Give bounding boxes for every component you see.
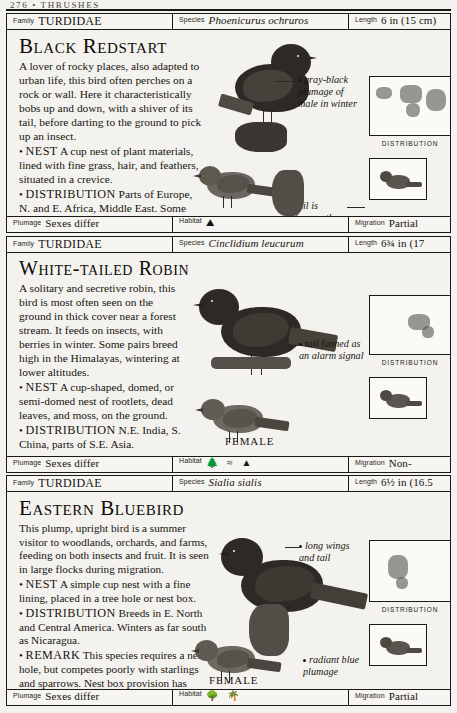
status-habitat: Habitat 🌲 ≈ ▲ — [172, 457, 348, 472]
species-meta-bar: Family TURDIDAE Species Phoenicurus ochr… — [6, 13, 451, 30]
callout-tail-fanned: tail fanned as an alarm signal — [299, 338, 365, 362]
forest-habitat-icon: 🌲 — [206, 458, 218, 468]
distribution-caption: DISTRIBUTION — [369, 606, 451, 613]
bird-tail — [254, 417, 289, 432]
status-bar: Plumage Sexes differ Habitat 🌲 ≈ ▲ Migra… — [6, 456, 451, 473]
callout-text: radiant blue plumage — [303, 654, 359, 677]
callout-dot — [303, 659, 306, 662]
meta-species-key: Species — [179, 478, 205, 485]
entry-description: This plump, upright bird is a summer vis… — [7, 521, 209, 689]
entry-body: Black Redstart A lover of rocky places, … — [6, 30, 451, 216]
bird-silhouette — [378, 388, 422, 414]
status-migration-key: Migration — [355, 692, 385, 699]
rock-perch — [235, 122, 287, 152]
map-region — [376, 87, 392, 99]
bullet-glyph: • — [19, 649, 26, 661]
status-migration-value: Partial migrant — [389, 217, 444, 232]
bird-leg — [223, 196, 224, 208]
meta-family: Family TURDIDAE — [7, 14, 172, 29]
distribution-label: DISTRIBUTION — [26, 187, 116, 201]
distribution-map — [369, 76, 451, 136]
remark-label: REMARK — [26, 648, 81, 662]
bullet-glyph: • — [19, 381, 26, 393]
description-paragraph: A solitary and secretive robin, this bir… — [19, 282, 185, 380]
status-plumage-value: Sexes differ — [45, 457, 99, 469]
bird-head — [380, 637, 392, 648]
branch-perch — [211, 357, 291, 369]
bird-beak — [219, 552, 229, 556]
meta-length-value: 6½ in (16.5 cm) — [381, 476, 444, 491]
map-region — [388, 555, 408, 579]
habitat-icon-group: ⛰ — [206, 218, 214, 228]
callout-leader-line — [285, 547, 299, 548]
status-plumage-key: Plumage — [13, 692, 41, 699]
callout-leader-line — [275, 81, 297, 82]
meta-family-key: Family — [13, 240, 34, 247]
meta-length: Length 6¾ in (17 cm) — [348, 237, 450, 252]
callout-dot — [299, 545, 302, 548]
species-entry: Family TURDIDAE Species Cinclidium leucu… — [6, 236, 451, 475]
nest-label: NEST — [26, 577, 58, 591]
bullet-glyph: • — [19, 145, 26, 157]
meta-family-key: Family — [13, 479, 34, 486]
remark-paragraph: • REMARK This species requires a nest ho… — [19, 648, 209, 689]
bird-tail — [246, 658, 281, 673]
bird-head — [380, 390, 392, 401]
map-region — [422, 326, 434, 338]
meta-species-value: Phoenicurus ochruros — [209, 14, 309, 26]
meta-family: Family TURDIDAE — [7, 237, 172, 252]
status-habitat: Habitat ⛰ — [172, 217, 348, 232]
status-migration-key: Migration — [355, 459, 385, 466]
scrub-habitat-icon: ≈ — [227, 458, 233, 468]
page-title: Eastern Bluebird — [7, 492, 450, 521]
description-paragraph: A lover of rocky places, also adapted to… — [19, 60, 203, 144]
status-bar: Plumage Sexes differ Habitat ⛰ Migration… — [6, 216, 451, 233]
bird-beak — [307, 56, 317, 60]
map-region — [396, 577, 408, 589]
rock-habitat-icon: ⛰ — [206, 218, 214, 228]
map-region — [426, 89, 446, 111]
meta-family: Family TURDIDAE — [7, 476, 172, 491]
entry-body: White-tailed Robin A solitary and secret… — [6, 253, 451, 456]
callout-text: tail fanned as an alarm signal — [299, 338, 364, 361]
bird-head — [201, 399, 225, 420]
meta-family-value: TURDIDAE — [38, 237, 102, 252]
habitat-icon-group: 🌳 🌴 — [206, 691, 239, 701]
bird-leg — [231, 196, 232, 208]
status-plumage-key: Plumage — [13, 459, 41, 466]
silhouette-panel — [369, 377, 427, 419]
distribution-map — [369, 540, 451, 602]
entry-body: Eastern Bluebird This plump, upright bir… — [6, 492, 451, 689]
meta-species-key: Species — [179, 16, 205, 23]
meta-family-key: Family — [13, 17, 34, 24]
bullet-glyph: • — [19, 578, 26, 590]
bird-head — [199, 289, 239, 325]
top-rule — [6, 9, 451, 11]
sex-label-female: FEMALE — [225, 435, 274, 447]
species-entry: Family TURDIDAE Species Sialia sialis Le… — [6, 475, 451, 708]
status-plumage-key: Plumage — [13, 219, 41, 226]
status-migration-value: Non-migrant — [389, 457, 444, 472]
bird-tail — [406, 648, 422, 653]
distribution-paragraph: • DISTRIBUTION Parts of Europe, N. and E… — [19, 187, 203, 216]
bird-tail — [406, 401, 422, 406]
woodland-habitat-icon: 🌳 — [206, 691, 218, 701]
distribution-caption: DISTRIBUTION — [369, 359, 451, 366]
bird-tail — [406, 182, 422, 187]
silhouette-panel — [369, 624, 427, 666]
bird-illustration-male — [193, 275, 343, 391]
status-migration: Migration Partial migrant — [348, 217, 450, 232]
meta-family-value: TURDIDAE — [38, 14, 102, 29]
status-habitat-key: Habitat — [179, 457, 202, 464]
meta-species: Species Cinclidium leucurum — [172, 237, 348, 252]
callout-dot — [299, 343, 302, 346]
meta-length-value: 6 in (15 cm) — [381, 14, 436, 26]
callout-dot — [298, 79, 301, 82]
bird-head — [380, 171, 392, 182]
entry-description: A lover of rocky places, also adapted to… — [7, 59, 203, 216]
status-habitat-key: Habitat — [179, 217, 202, 224]
nest-paragraph: • NEST A simple cup nest with a fine lin… — [19, 577, 209, 606]
bird-beak — [193, 174, 201, 178]
status-migration: Migration Partial migrant — [348, 690, 450, 705]
mountain-habitat-icon: ▲ — [241, 458, 251, 468]
